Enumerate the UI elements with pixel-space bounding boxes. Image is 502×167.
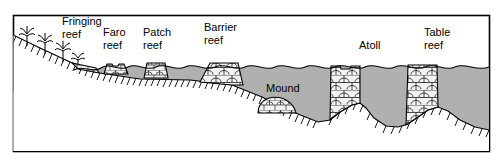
- label-fringing-reef-line2: reef: [62, 28, 82, 40]
- label-faro-reef-line1: Faro: [103, 26, 126, 38]
- label-fringing-reef-line1: Fringing: [62, 15, 102, 27]
- label-barrier-reef-line1: Barrier: [204, 21, 237, 33]
- label-patch-reef-line1: Patch: [143, 26, 171, 38]
- label-table-reef-line1: Table: [424, 26, 450, 38]
- patch-reef: [144, 63, 168, 78]
- label-atoll: Atoll: [359, 39, 380, 51]
- reef-diagram-figure: Fringing reef Faro reef Patch reef Barri…: [0, 0, 502, 167]
- label-mound: Mound: [266, 82, 300, 94]
- reef-cross-section-svg: Fringing reef Faro reef Patch reef Barri…: [0, 0, 502, 167]
- patch-reef-body: [144, 63, 168, 78]
- label-barrier-reef-line2: reef: [204, 34, 224, 46]
- label-patch-reef-line2: reef: [143, 39, 163, 51]
- label-table-reef-line2: reef: [424, 39, 444, 51]
- label-faro-reef-line2: reef: [103, 39, 123, 51]
